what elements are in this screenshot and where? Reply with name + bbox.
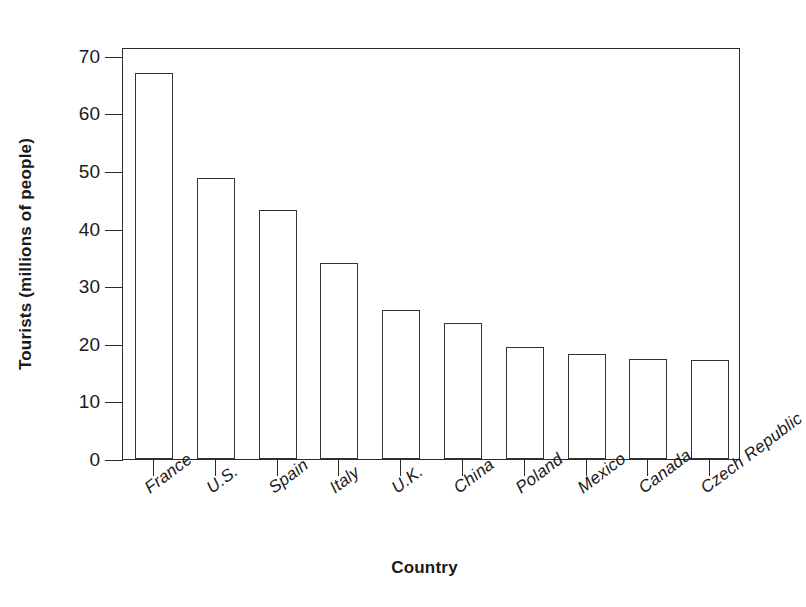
y-tick-mark [105,57,123,58]
x-tick-label: U.S. [203,462,242,498]
plot-area [122,48,740,460]
x-tick-label: Spain [265,455,313,498]
x-tick-label: Italy [326,463,364,498]
bar [568,354,606,459]
x-axis-title: Country [0,558,793,578]
bar [197,178,235,459]
x-tick-label: U.K. [388,462,427,498]
bar [382,310,420,459]
y-axis-title: Tourists (millions of people) [16,94,36,414]
y-tick-label: 0 [40,450,100,469]
y-tick-mark [105,172,123,173]
y-tick-mark [105,460,123,461]
bar [506,347,544,459]
bar [444,323,482,459]
y-tick-label: 40 [40,220,100,239]
bar [629,359,667,459]
bar [320,263,358,459]
x-axis-title-text: Country [391,558,458,577]
y-tick-label: 30 [40,277,100,296]
y-tick-mark [105,402,123,403]
y-tick-mark [105,345,123,346]
bar [259,210,297,460]
y-tick-mark [105,230,123,231]
bar [135,73,173,459]
y-tick-label: 70 [40,47,100,66]
y-tick-label: 50 [40,162,100,181]
y-tick-label: 60 [40,104,100,123]
bar [691,360,729,459]
x-tick-label: China [450,455,498,498]
y-tick-label: 10 [40,392,100,411]
y-tick-mark [105,114,123,115]
y-tick-mark [105,287,123,288]
y-tick-label: 20 [40,335,100,354]
